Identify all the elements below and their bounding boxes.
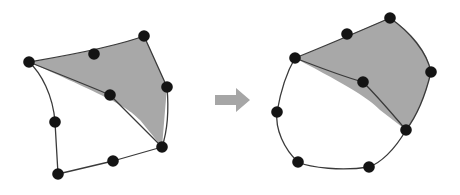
transformation-arrow xyxy=(215,88,250,112)
after-node-left[interactable] xyxy=(271,106,283,118)
before-node-right[interactable] xyxy=(161,81,173,93)
before-node-center[interactable] xyxy=(104,89,116,101)
after-node-bottom-right[interactable] xyxy=(400,124,412,136)
after-node-bottom-mid[interactable] xyxy=(363,161,375,173)
after-node-center[interactable] xyxy=(357,76,369,88)
after-node-right[interactable] xyxy=(425,66,437,78)
before-node-bottom-mid[interactable] xyxy=(107,155,119,167)
figure-root: Mesh refinement transformation xyxy=(0,0,460,195)
before-node-bottom-left[interactable] xyxy=(52,168,64,180)
before-node-top-right[interactable] xyxy=(138,30,150,42)
before-node-top-mid[interactable] xyxy=(88,48,100,60)
before-node-left-mid[interactable] xyxy=(49,116,61,128)
before-node-left[interactable] xyxy=(23,56,35,68)
after-node-left-top[interactable] xyxy=(289,52,301,64)
mesh-panel-after xyxy=(271,12,437,173)
after-node-bottom-left[interactable] xyxy=(292,156,304,168)
after-node-top-mid[interactable] xyxy=(341,28,353,40)
mesh-transformation-diagram xyxy=(0,0,460,195)
mesh-panel-before xyxy=(23,30,173,180)
before-node-bottom-right[interactable] xyxy=(156,141,168,153)
after-node-top-right[interactable] xyxy=(384,12,396,24)
